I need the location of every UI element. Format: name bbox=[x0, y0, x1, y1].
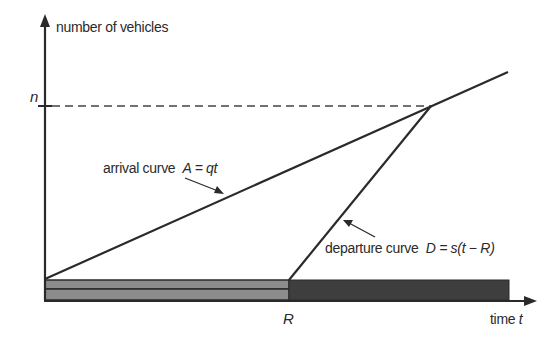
departure-pointer-head bbox=[343, 220, 353, 227]
arrival-equation: A = qt bbox=[183, 160, 218, 176]
r-label: R bbox=[283, 310, 294, 327]
departure-label: departure curve D = s(t − R) bbox=[325, 240, 495, 256]
green-phase-bar bbox=[289, 280, 509, 300]
x-axis-label: time t bbox=[490, 311, 522, 327]
y-axis-label: number of vehicles bbox=[56, 19, 168, 35]
x-axis-label-text: time bbox=[490, 311, 515, 327]
arrival-label-text: arrival curve bbox=[103, 160, 175, 176]
x-axis-arrowhead bbox=[524, 296, 537, 306]
departure-equation: D = s(t − R) bbox=[426, 240, 495, 256]
x-axis-label-var: t bbox=[519, 311, 523, 327]
departure-pointer bbox=[349, 223, 375, 237]
n-label: n bbox=[30, 88, 38, 105]
red-phase-bar-top bbox=[45, 280, 289, 289]
arrival-pointer-head bbox=[214, 186, 224, 194]
red-phase-bar-bottom bbox=[45, 289, 289, 300]
diagram-canvas bbox=[0, 0, 558, 342]
arrival-label: arrival curve A = qt bbox=[103, 160, 217, 176]
departure-label-text: departure curve bbox=[325, 240, 419, 256]
y-axis-arrowhead bbox=[40, 14, 50, 27]
arrival-pointer bbox=[185, 178, 218, 191]
